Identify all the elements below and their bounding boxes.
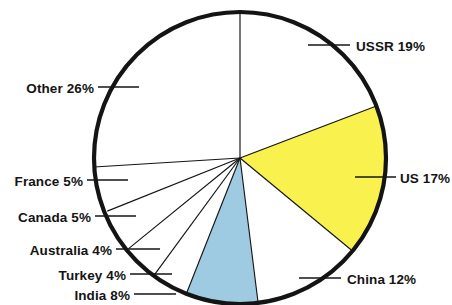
pie-label-france: France 5%	[15, 174, 83, 189]
pie-label-canada: Canada 5%	[18, 210, 91, 225]
pie-label-india: India 8%	[74, 288, 130, 303]
pie-label-ussr: USSR 19%	[356, 39, 425, 54]
pie-chart-canvas: USSR 19% US 17% China 12% India 8% Turke…	[0, 0, 452, 305]
pie-label-us: US 17%	[400, 171, 450, 186]
pie-label-australia: Australia 4%	[30, 243, 112, 258]
pie-label-other: Other 26%	[26, 81, 94, 96]
pie-chart: USSR 19% US 17% China 12% India 8% Turke…	[0, 0, 452, 305]
pie-label-china: China 12%	[347, 272, 416, 287]
pie-label-turkey: Turkey 4%	[59, 268, 126, 283]
pie-slice-other[interactable]	[94, 12, 240, 167]
